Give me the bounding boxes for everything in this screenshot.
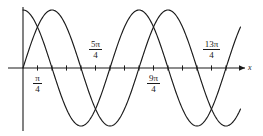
tick-label-5pi-over-4: 5π 4	[82, 39, 110, 60]
tick-label-pi-over-4: π 4	[24, 73, 52, 94]
fraction-denominator: 4	[147, 84, 160, 94]
fraction-denominator: 4	[89, 50, 102, 60]
tick-label-9pi-over-4: 9π 4	[140, 73, 168, 94]
fraction-numerator: 9π	[147, 73, 160, 84]
fraction-numerator: π	[33, 73, 42, 84]
fraction: π 4	[33, 73, 42, 94]
fraction-numerator: 5π	[89, 39, 102, 50]
plot-canvas	[0, 0, 263, 136]
fraction-numerator: 13π	[203, 39, 221, 50]
fraction-denominator: 4	[203, 50, 221, 60]
trig-graph-figure: π 4 5π 4 9π 4 13π 4 x	[0, 0, 263, 136]
fraction: 13π 4	[203, 39, 221, 60]
fraction-denominator: 4	[33, 84, 42, 94]
fraction: 9π 4	[147, 73, 160, 94]
fraction: 5π 4	[89, 39, 102, 60]
x-axis-arrow-icon	[239, 65, 245, 71]
x-axis-label: x	[248, 63, 252, 72]
tick-label-13pi-over-4: 13π 4	[198, 39, 226, 60]
